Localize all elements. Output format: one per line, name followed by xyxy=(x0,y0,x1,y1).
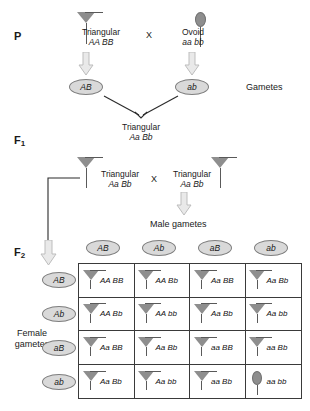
f1-cross-symbol: X xyxy=(151,174,157,184)
punnett-cell: Aa Bb xyxy=(135,331,191,365)
generation-label-f1: F1 xyxy=(14,134,25,146)
punnett-cell-genotype: AA bb xyxy=(156,309,178,318)
f1-parent2-triangular-icon xyxy=(210,157,230,188)
triangular-icon xyxy=(248,301,267,327)
p-gamete-ab: ab xyxy=(175,79,209,95)
ovoid-icon xyxy=(248,368,267,394)
punnett-cell-genotype: Aa Bb xyxy=(156,343,178,352)
punnett-cell-genotype: Aa Bb xyxy=(267,276,289,285)
punnett-cell: Aa bb xyxy=(246,298,302,332)
male-gamete-col-0: AB xyxy=(86,240,120,256)
triangular-icon xyxy=(137,368,156,394)
male-gamete-col-2: aB xyxy=(198,240,232,256)
p-cross-symbol: X xyxy=(146,30,152,40)
punnett-cell: Aa Bb xyxy=(79,365,135,399)
triangular-icon xyxy=(192,267,211,293)
punnett-cell: Aa bb xyxy=(135,365,191,399)
punnett-cell: AA bb xyxy=(135,298,191,332)
p-parent2-genotype: aa bb xyxy=(158,38,228,48)
punnett-cell-genotype: Aa bb xyxy=(267,309,288,318)
punnett-cell-genotype: AA Bb xyxy=(100,309,122,318)
punnett-cell: Aa Bb xyxy=(190,298,246,332)
punnett-cell-genotype: Aa bb xyxy=(156,377,177,386)
punnett-cell-genotype: aa Bb xyxy=(267,343,288,352)
punnett-cell: aa Bb xyxy=(246,331,302,365)
punnett-cell-genotype: aa Bb xyxy=(211,377,232,386)
female-gamete-row-0: AB xyxy=(42,272,76,288)
punnett-cell-genotype: AA BB xyxy=(100,276,123,285)
triangular-icon xyxy=(248,334,267,360)
punnett-cell: Aa Bb xyxy=(246,264,302,298)
p-parent1-genotype: AA BB xyxy=(66,38,136,48)
p-gamete-AB: AB xyxy=(69,79,103,95)
f1-offspring-genotype: Aa Bb xyxy=(106,133,176,143)
punnett-cell: Aa BB xyxy=(79,331,135,365)
triangular-icon xyxy=(81,267,100,293)
punnett-cell: Aa BB xyxy=(190,264,246,298)
male-gamete-col-1: Ab xyxy=(142,240,176,256)
triangular-icon xyxy=(81,334,100,360)
punnett-cell: AA Bb xyxy=(79,298,135,332)
triangular-icon xyxy=(81,368,100,394)
punnett-cell-genotype: Aa Bb xyxy=(211,309,233,318)
gametes-label: Gametes xyxy=(246,82,283,92)
punnett-cell-genotype: Aa BB xyxy=(100,343,123,352)
punnett-cell: aa Bb xyxy=(190,365,246,399)
female-gamete-row-2: aB xyxy=(42,340,76,356)
f1-parent1-genotype: Aa Bb xyxy=(90,180,150,190)
male-gametes-arrow-icon xyxy=(176,192,192,216)
female-gametes-label-line1: Female xyxy=(2,328,62,339)
p-parent1-gamete-arrow-icon xyxy=(78,52,94,76)
punnett-cell-genotype: aa bb xyxy=(267,377,287,386)
f2-female-arrow-icon xyxy=(40,240,57,266)
punnett-cell: aa bb xyxy=(246,365,302,399)
triangular-icon xyxy=(137,301,156,327)
p-to-f1-converging-lines xyxy=(86,94,196,124)
triangular-icon xyxy=(137,334,156,360)
punnett-cell-genotype: Aa Bb xyxy=(100,377,122,386)
punnett-cell-genotype: AA Bb xyxy=(156,276,178,285)
punnett-cell: AA Bb xyxy=(135,264,191,298)
triangular-icon xyxy=(81,301,100,327)
punnett-cell-genotype: aa BB xyxy=(211,343,233,352)
female-gamete-row-1: Ab xyxy=(42,306,76,322)
generation-label-p: P xyxy=(14,30,21,42)
p-parent2-gamete-arrow-icon xyxy=(184,52,200,76)
generation-label-f2: F2 xyxy=(14,246,25,258)
male-gamete-col-3: ab xyxy=(254,240,288,256)
punnett-cell-genotype: Aa BB xyxy=(211,276,234,285)
punnett-square-grid: AA BBAA BbAa BBAa BbAA BbAA bbAa BbAa bb… xyxy=(78,263,302,399)
triangular-icon xyxy=(192,368,211,394)
triangular-icon xyxy=(192,334,211,360)
punnett-cell: AA BB xyxy=(79,264,135,298)
female-gamete-row-3: ab xyxy=(42,374,76,390)
male-gametes-label: Male gametes xyxy=(150,219,207,229)
triangular-icon xyxy=(248,267,267,293)
punnett-cell: aa BB xyxy=(190,331,246,365)
triangular-icon xyxy=(192,301,211,327)
triangular-icon xyxy=(137,267,156,293)
